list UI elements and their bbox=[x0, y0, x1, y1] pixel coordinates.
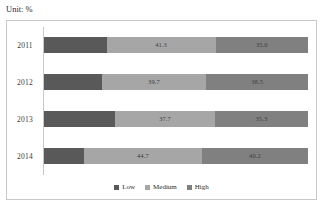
table-row: 2012 39.7 38.5 bbox=[7, 69, 316, 95]
bar-value-medium: 44.7 bbox=[137, 153, 149, 160]
bar-segment-low[interactable] bbox=[44, 148, 84, 164]
bar-segment-low[interactable] bbox=[44, 111, 115, 127]
category-label: 2014 bbox=[7, 152, 43, 161]
legend-label: High bbox=[195, 184, 209, 191]
legend-item-high[interactable]: High bbox=[187, 184, 209, 191]
bar-value-high: 35.0 bbox=[256, 42, 268, 49]
bar-segment-high[interactable]: 35.0 bbox=[216, 37, 308, 53]
category-label: 2013 bbox=[7, 115, 43, 124]
bar-segment-high[interactable]: 38.5 bbox=[206, 74, 308, 90]
table-row: 2013 37.7 35.3 bbox=[7, 106, 316, 132]
bar-segment-medium[interactable]: 44.7 bbox=[84, 148, 202, 164]
bar-value-medium: 39.7 bbox=[148, 79, 160, 86]
category-label: 2012 bbox=[7, 78, 43, 87]
stacked-bar: 41.3 35.0 bbox=[43, 37, 308, 53]
bar-value-high: 40.2 bbox=[249, 153, 261, 160]
stacked-bar: 39.7 38.5 bbox=[43, 74, 308, 90]
table-row: 2011 41.3 35.0 bbox=[7, 32, 316, 58]
legend-item-low[interactable]: Low bbox=[114, 184, 135, 191]
legend-label: Low bbox=[122, 184, 135, 191]
bar-value-medium: 37.7 bbox=[159, 116, 171, 123]
bar-value-high: 38.5 bbox=[251, 79, 263, 86]
chart-page: Unit: % 2011 41.3 35.0 bbox=[0, 0, 324, 213]
legend-item-medium[interactable]: Medium bbox=[145, 184, 177, 191]
table-row: 2014 44.7 40.2 bbox=[7, 143, 316, 169]
bar-segment-high[interactable]: 35.3 bbox=[215, 111, 308, 127]
square-swatch-icon bbox=[187, 185, 192, 190]
bar-value-medium: 41.3 bbox=[155, 42, 167, 49]
chart-frame: 2011 41.3 35.0 2012 bbox=[6, 20, 317, 200]
bar-segment-low[interactable] bbox=[44, 37, 107, 53]
bar-segment-medium[interactable]: 41.3 bbox=[107, 37, 216, 53]
stacked-bar: 44.7 40.2 bbox=[43, 148, 308, 164]
category-label: 2011 bbox=[7, 41, 43, 50]
square-swatch-icon bbox=[145, 185, 150, 190]
legend-label: Medium bbox=[153, 184, 177, 191]
bar-segment-medium[interactable]: 39.7 bbox=[102, 74, 207, 90]
plot-area: 2011 41.3 35.0 2012 bbox=[7, 21, 316, 199]
bar-segment-low[interactable] bbox=[44, 74, 102, 90]
stacked-bar: 37.7 35.3 bbox=[43, 111, 308, 127]
bar-segment-high[interactable]: 40.2 bbox=[202, 148, 308, 164]
square-swatch-icon bbox=[114, 185, 119, 190]
bar-value-high: 35.3 bbox=[255, 116, 267, 123]
unit-caption: Unit: % bbox=[6, 4, 33, 15]
bar-segment-medium[interactable]: 37.7 bbox=[115, 111, 215, 127]
chart-legend: Low Medium High bbox=[7, 184, 316, 191]
